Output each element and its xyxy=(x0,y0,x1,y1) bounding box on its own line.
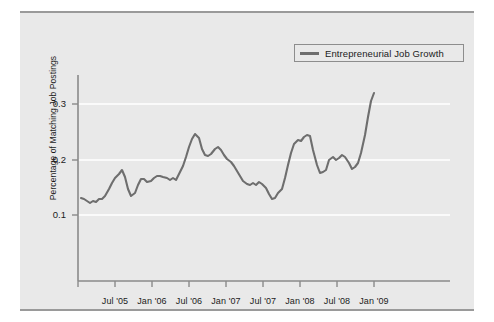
chart-panel: Percentage of Matching Job Postings 0.3 … xyxy=(20,11,474,311)
legend-label-entrepreneurial-job-growth: Entrepreneurial Job Growth xyxy=(325,48,444,59)
legend-swatch-icon xyxy=(300,52,319,55)
axis-lines xyxy=(78,75,450,281)
x-tick-label-7: Jan '09 xyxy=(351,296,397,306)
chart-legend: Entrepreneurial Job Growth xyxy=(294,44,464,62)
y-axis-ticks xyxy=(72,104,78,215)
y-tick-label-0: 0.3 xyxy=(42,98,66,109)
chart-figure: Percentage of Matching Job Postings 0.3 … xyxy=(0,0,494,322)
gridlines xyxy=(78,104,450,215)
x-axis-ticks xyxy=(78,281,374,287)
y-tick-label-1: 0.2 xyxy=(42,154,66,165)
y-tick-label-2: 0.1 xyxy=(42,209,66,220)
series-line-entrepreneurial-job-growth xyxy=(81,93,374,203)
y-axis-label: Percentage of Matching Job Postings xyxy=(48,43,58,213)
